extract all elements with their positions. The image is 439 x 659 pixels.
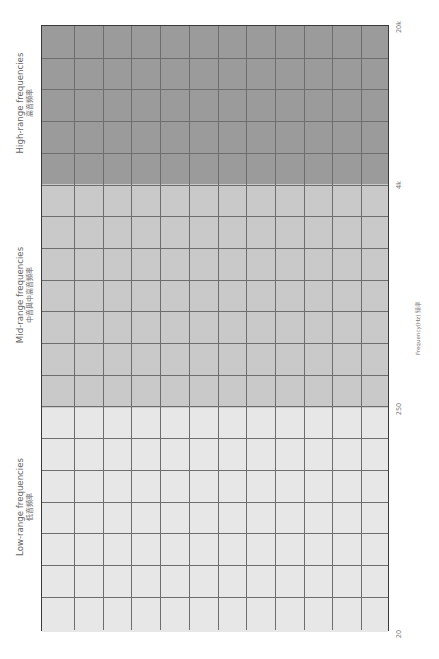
grid-hline (42, 153, 388, 154)
grid-vline (275, 26, 276, 630)
label-low-en: Low-range frequencies (16, 458, 26, 556)
grid-vline (332, 26, 333, 630)
grid-hline (42, 565, 388, 566)
grid-hline (42, 248, 388, 249)
grid-hline (42, 406, 388, 407)
grid-hline (42, 597, 388, 598)
grid-hline (42, 470, 388, 471)
grid-vline (361, 26, 362, 630)
label-high: High-range frequencies 高音頻率 (16, 53, 34, 154)
grid-hline (42, 375, 388, 376)
axis-title: Frequency(Hz) 频率 (415, 301, 421, 355)
grid-hline (42, 438, 388, 439)
tick-250: 250 (396, 403, 404, 416)
grid-vline (131, 26, 132, 630)
grid-vline (246, 26, 247, 630)
grid-vline (189, 26, 190, 630)
tick-20: 20 (396, 630, 404, 638)
grid-hline (42, 311, 388, 312)
label-high-en: High-range frequencies (16, 53, 26, 154)
tick-4k: 4k (396, 181, 404, 189)
label-low: Low-range frequencies 低音頻率 (16, 458, 34, 556)
grid-vline (218, 26, 219, 630)
label-mid-zh: 中音與中高音頻率 (26, 247, 34, 343)
frequency-grid (41, 25, 389, 631)
band-high (42, 26, 388, 184)
grid-hline (42, 533, 388, 534)
label-low-zh: 低音頻率 (26, 458, 34, 556)
grid-hline (42, 280, 388, 281)
grid-hline (42, 216, 388, 217)
label-high-zh: 高音頻率 (26, 53, 34, 154)
grid-hline (42, 343, 388, 344)
tick-20k: 20k (396, 21, 404, 33)
grid-vline (103, 26, 104, 630)
grid-vline (304, 26, 305, 630)
grid-vline (74, 26, 75, 630)
label-mid-en: Mid-range frequencies (16, 247, 26, 343)
band-low (42, 408, 388, 632)
label-mid: Mid-range frequencies 中音與中高音頻率 (16, 247, 34, 343)
grid-hline (42, 502, 388, 503)
grid-hline (42, 121, 388, 122)
grid-hline (42, 58, 388, 59)
grid-hline (42, 89, 388, 90)
grid-hline (42, 185, 388, 186)
grid-vline (160, 26, 161, 630)
